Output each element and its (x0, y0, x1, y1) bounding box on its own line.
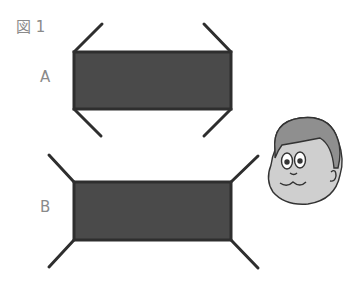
shape-b-arm (231, 240, 258, 268)
shape-a (74, 24, 231, 136)
shape-a-arm (74, 109, 101, 136)
shape-a-arm (204, 109, 231, 136)
shape-b-arm (49, 240, 74, 267)
shape-b-rect (74, 182, 231, 240)
shape-a-rect (74, 52, 231, 109)
cartoon-face-icon (268, 117, 342, 204)
shape-b-arm (231, 156, 258, 182)
figure-canvas (0, 0, 361, 297)
shape-b-arm (49, 155, 74, 182)
shape-a-arm (74, 24, 102, 52)
shape-a-arm (204, 24, 231, 52)
shape-b (49, 155, 258, 268)
